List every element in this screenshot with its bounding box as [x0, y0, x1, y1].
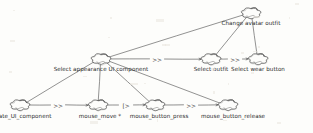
operator-label-enabling: >> [229, 56, 240, 63]
node-label-change_avatar_outfit: Change avatar outfit [222, 20, 281, 27]
cloud-icon [88, 100, 108, 111]
task-node-mouse_button_release[interactable] [218, 100, 238, 111]
scan-speck [83, 76, 87, 77]
node-label-mouse_button_press: mouse_button_press [130, 113, 189, 120]
scan-speck [228, 83, 230, 85]
scan-speck [9, 71, 12, 73]
scan-speck [295, 3, 299, 5]
scan-speck [251, 72, 254, 74]
scan-speck [223, 120, 228, 122]
node-label-select_wear_button: Select wear button [231, 66, 285, 73]
operator-label-enabling: >> [185, 102, 196, 109]
scan-speck [108, 37, 110, 39]
scan-speck [110, 17, 112, 19]
operator-label-enabling: >> [151, 56, 162, 63]
scan-speck [156, 19, 163, 22]
task-node-select_outfit[interactable] [201, 54, 221, 66]
node-label-mouse_button_release: mouse_button_release [201, 113, 265, 120]
scan-speck [162, 44, 167, 46]
task-node-locate_ui_component[interactable] [10, 100, 30, 111]
task-node-select_appearance_ui_component[interactable] [91, 54, 111, 66]
task-node-mouse_button_press[interactable] [145, 100, 165, 111]
scan-speck [211, 68, 215, 71]
cloud-icon [248, 54, 268, 65]
scan-speck [144, 83, 146, 84]
scan-speck [253, 51, 257, 52]
scan-speck [130, 83, 138, 86]
node-label-locate_ui_component: locate_UI_component [0, 113, 52, 120]
diagram-canvas: Change avatar outfitSelect appearance UI… [0, 0, 313, 133]
node-label-select_appearance_ui_component: Select appearance UI component [54, 66, 149, 73]
scan-speck [90, 121, 98, 124]
node-label-mouse_move: mouse_move * [79, 113, 121, 120]
scan-speck [213, 91, 215, 94]
task-node-select_wear_button[interactable] [248, 54, 268, 66]
operator-label-disabling: [> [122, 102, 131, 109]
scan-speck [289, 17, 290, 18]
task-node-mouse_move[interactable] [88, 100, 108, 111]
scan-speck [258, 46, 260, 48]
scan-speck [178, 117, 179, 119]
cloud-icon [218, 100, 238, 111]
scan-speck [277, 122, 282, 124]
scan-speck [10, 40, 15, 42]
scan-speck [253, 16, 260, 19]
scan-speck [13, 10, 15, 11]
cloud-icon [91, 54, 111, 65]
operator-label-enabling: >> [52, 102, 63, 109]
scan-speck [241, 52, 244, 54]
scan-speck [157, 119, 158, 122]
